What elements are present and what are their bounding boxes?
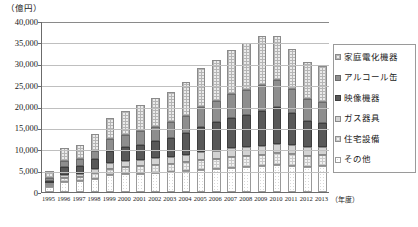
segment-jutaku (303, 156, 311, 167)
y-tick-mark (38, 193, 41, 194)
bar-1998[interactable] (91, 134, 99, 192)
segment-eizou (197, 127, 205, 153)
segment-katei (227, 50, 235, 94)
x-tick-2009: 2009 (253, 195, 268, 203)
legend-label: その他 (344, 155, 371, 164)
x-tick-2011: 2011 (284, 195, 299, 203)
segment-jutaku (227, 157, 235, 168)
segment-alcohol (136, 131, 144, 144)
plot-area (41, 22, 329, 193)
segment-eizou (303, 121, 311, 148)
legend-label: 家庭電化機器 (344, 53, 398, 62)
segment-sonota (288, 166, 296, 193)
legend-item-katei[interactable]: 家庭電化機器 (335, 47, 417, 68)
segment-alcohol (318, 102, 326, 123)
x-tick-2007: 2007 (223, 195, 238, 203)
x-tick-2010: 2010 (268, 195, 283, 203)
segment-gas (273, 144, 281, 153)
y-tick-30000: 30,000 (0, 60, 38, 69)
x-tick-1997: 1997 (71, 195, 86, 203)
segment-katei (121, 111, 129, 135)
legend-item-jutaku[interactable]: 住宅設備 (335, 129, 417, 150)
segment-sonota (258, 166, 266, 192)
segment-katei (242, 43, 250, 90)
bar-1997[interactable] (76, 145, 84, 192)
segment-gas (212, 151, 220, 159)
segment-sonota (45, 187, 53, 192)
x-tick-1999: 1999 (102, 195, 117, 203)
segment-katei (288, 49, 296, 89)
segment-jutaku (288, 154, 296, 166)
bar-2002[interactable] (151, 98, 159, 192)
segment-alcohol (106, 139, 114, 150)
y-tick-20000: 20,000 (0, 103, 38, 112)
legend-swatch-jutaku-icon (335, 136, 341, 142)
segment-sonota (76, 181, 84, 192)
segment-sonota (273, 165, 281, 192)
bar-1996[interactable] (60, 148, 68, 192)
segment-jutaku (182, 162, 190, 171)
segment-sonota (303, 167, 311, 192)
x-tick-2006: 2006 (208, 195, 223, 203)
segment-eizou (273, 107, 281, 144)
segment-sonota (106, 175, 114, 192)
segment-sonota (121, 174, 129, 192)
bar-1995[interactable] (45, 171, 53, 192)
segment-katei (197, 68, 205, 106)
bar-2011[interactable] (288, 49, 296, 192)
segment-jutaku (212, 159, 220, 169)
legend-swatch-alcohol-icon (335, 75, 341, 81)
legend-swatch-gas-icon (335, 116, 341, 122)
segment-sonota (197, 170, 205, 192)
x-tick-1996: 1996 (56, 195, 71, 203)
segment-sonota (167, 172, 175, 192)
segment-alcohol (91, 151, 99, 160)
gridline-10000 (42, 150, 329, 151)
legend-item-gas[interactable]: ガス器具 (335, 109, 417, 130)
segment-eizou (227, 118, 235, 149)
segment-sonota (136, 174, 144, 192)
gridline-15000 (42, 129, 329, 130)
bar-2010[interactable] (273, 36, 281, 192)
stacked-bar-chart: （億円） 05,00010,00015,00020,00025,00030,00… (0, 0, 418, 227)
legend-item-eizou[interactable]: 映像機器 (335, 88, 417, 109)
segment-jutaku (121, 167, 129, 174)
x-tick-2005: 2005 (193, 195, 208, 203)
segment-sonota (91, 179, 99, 192)
segment-sonota (151, 173, 159, 192)
segment-eizou (106, 151, 114, 164)
legend-label: アルコール缶 (344, 73, 398, 82)
x-tick-2003: 2003 (162, 195, 177, 203)
segment-jutaku (242, 156, 250, 167)
bar-2009[interactable] (258, 36, 266, 192)
segment-alcohol (76, 159, 84, 166)
segment-alcohol (288, 89, 296, 113)
x-tick-2008: 2008 (238, 195, 253, 203)
bar-2001[interactable] (136, 105, 144, 192)
segment-eizou (91, 159, 99, 169)
legend-item-alcohol[interactable]: アルコール缶 (335, 68, 417, 89)
gridline-35000 (42, 43, 329, 44)
segment-jutaku (318, 155, 326, 166)
segment-gas (303, 147, 311, 156)
legend: 家庭電化機器アルコール缶映像機器ガス器具住宅設備その他 (335, 47, 417, 170)
segment-alcohol (182, 116, 190, 134)
gridline-20000 (42, 108, 329, 109)
legend-label: ガス器具 (344, 114, 380, 123)
gridline-5000 (42, 172, 329, 173)
segment-sonota (182, 171, 190, 192)
segment-alcohol (303, 99, 311, 121)
segment-alcohol (227, 94, 235, 118)
x-axis-tick-labels: 1995199619971998199920002001200220032004… (41, 195, 329, 209)
legend-item-sonota[interactable]: その他 (335, 150, 417, 171)
bar-2004[interactable] (182, 82, 190, 192)
gridline-25000 (42, 86, 329, 87)
segment-gas (182, 155, 190, 162)
segment-alcohol (273, 80, 281, 107)
x-tick-2013: 2013 (314, 195, 329, 203)
segment-gas (242, 147, 250, 156)
legend-swatch-sonota-icon (335, 157, 341, 163)
segment-eizou (242, 115, 250, 147)
bar-2000[interactable] (121, 111, 129, 192)
segment-eizou (212, 122, 220, 150)
